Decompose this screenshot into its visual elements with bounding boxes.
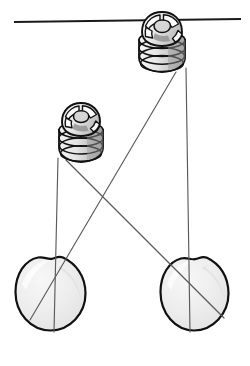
lower-pulley-crown xyxy=(62,103,100,136)
upper-pulley-hub xyxy=(154,20,171,33)
pulley-diagram-figure: Double pulley block and tackle mechanism… xyxy=(0,0,250,366)
right-weight xyxy=(161,257,229,331)
cord-diagonal-left xyxy=(66,160,224,318)
lower-pulley xyxy=(59,103,103,162)
upper-pulley xyxy=(139,12,185,72)
ceiling-beam xyxy=(14,19,241,22)
diagram-canvas xyxy=(0,0,250,366)
lower-pulley-hub xyxy=(74,111,89,123)
cord-diagonal-right xyxy=(30,72,176,320)
left-weight-body xyxy=(16,257,86,331)
upper-pulley-crown xyxy=(142,12,182,46)
weights-group xyxy=(16,257,229,331)
left-weight xyxy=(16,257,86,331)
right-weight-body xyxy=(161,257,229,331)
